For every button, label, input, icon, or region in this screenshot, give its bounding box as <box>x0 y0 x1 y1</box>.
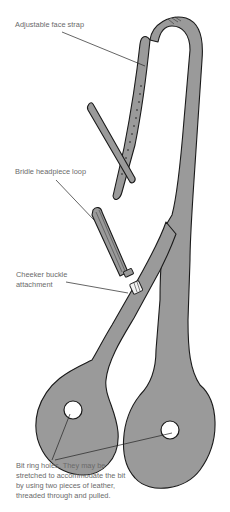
face-strap-label: Adjustable face strap <box>15 20 84 30</box>
buckle-roll <box>92 208 128 276</box>
headpiece-loop-leader <box>56 180 94 220</box>
holes-label-line2: stretched to accommodate the bit <box>16 471 125 481</box>
left-bit-ring-hole <box>64 401 82 419</box>
buckle-leader <box>66 282 128 293</box>
buckle-label-line1: Cheeker buckle <box>16 270 67 280</box>
right-bit-ring-hole <box>161 421 179 439</box>
headpiece-loop-label: Bridle headpiece loop <box>15 167 86 177</box>
diagram-canvas <box>0 0 230 512</box>
holes-label-line1: Bit ring holes. They may be <box>16 461 105 471</box>
holes-label-line4: threaded through and pulled. <box>16 491 111 501</box>
buckle-label-line2: attachment <box>16 280 53 290</box>
holes-label-line3: by using two pieces of leather, <box>16 481 115 491</box>
face-strap-leader <box>62 32 145 66</box>
